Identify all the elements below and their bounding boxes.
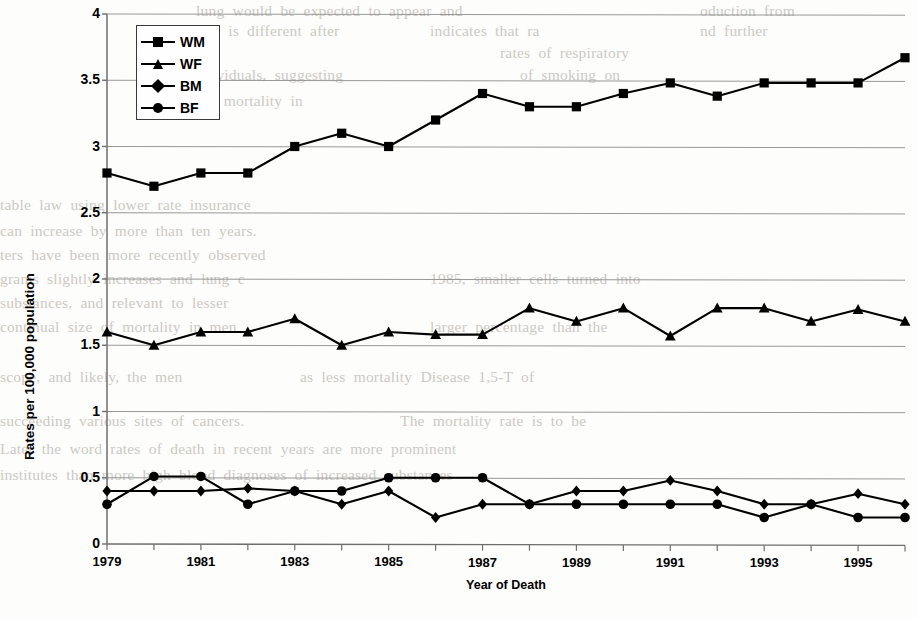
y-tick-label: 4 <box>40 5 100 21</box>
legend-item-wm: WM <box>137 31 219 53</box>
triangle-marker-icon <box>141 57 175 71</box>
x-tick-label: 1989 <box>541 555 611 570</box>
x-tick-label: 1993 <box>729 555 799 570</box>
y-tick-label: 0 <box>40 535 100 551</box>
diamond-marker-icon <box>141 79 175 93</box>
y-tick-label: 3 <box>40 138 100 154</box>
circle-marker-icon <box>141 101 175 115</box>
x-tick-label: 1981 <box>166 554 236 569</box>
y-tick-label: 2 <box>40 270 100 286</box>
series-wf <box>102 303 911 350</box>
legend-item-label: BF <box>180 101 199 115</box>
legend-item-bm: BM <box>137 75 219 97</box>
chart-page: lung would be expected to appear andoduc… <box>0 0 918 618</box>
y-tick-label: 2.5 <box>40 204 100 220</box>
legend-item-label: WM <box>180 35 205 49</box>
y-tick-label: 1.5 <box>40 336 100 352</box>
x-tick-label: 1995 <box>823 555 893 570</box>
chart-legend: WMWFBMBF <box>136 25 220 120</box>
legend-item-label: BM <box>180 79 202 93</box>
square-marker-icon <box>141 35 175 49</box>
series-bf <box>102 472 910 523</box>
series-bm <box>102 475 909 523</box>
legend-item-bf: BF <box>137 97 219 119</box>
line-chart: 00.511.522.533.54 1979198119831985198719… <box>0 0 918 618</box>
x-tick-label: 1987 <box>448 555 518 570</box>
x-tick-label: 1985 <box>354 554 424 569</box>
legend-item-label: WF <box>180 57 202 71</box>
y-axis-title: Rates per 100,000 population <box>22 273 37 460</box>
y-tick-label: 1 <box>40 403 100 419</box>
x-axis-title: Year of Death <box>406 578 606 592</box>
series-wm <box>102 53 909 191</box>
x-tick-label: 1979 <box>72 554 142 569</box>
x-tick-label: 1983 <box>260 554 330 569</box>
legend-item-wf: WF <box>137 53 219 75</box>
x-tick-label: 1991 <box>635 555 705 570</box>
y-tick-label: 3.5 <box>40 71 100 87</box>
y-tick-label: 0.5 <box>40 469 100 485</box>
